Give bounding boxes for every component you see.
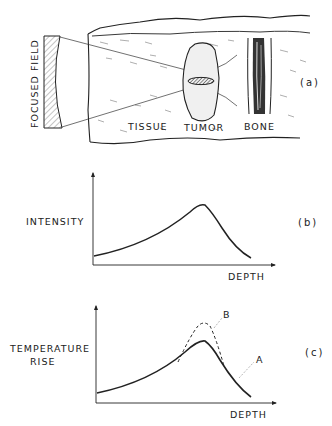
curve-a-label: A <box>256 354 264 365</box>
panel-b: INTENSITY DEPTH (b) <box>26 173 318 282</box>
y-axis-label-line1: TEMPERATURE <box>9 343 90 354</box>
curve-b-label: B <box>223 309 231 320</box>
tumor-label: TUMOR <box>183 122 224 133</box>
tumor <box>183 43 219 121</box>
panel-c-label: (c) <box>305 347 324 358</box>
y-axis-label-line2: RISE <box>30 356 55 367</box>
panel-a: FOCUSED FIELD <box>29 15 320 143</box>
curve-a-solid <box>97 341 251 397</box>
focused-field-transducer <box>44 36 62 128</box>
x-axis-label: DEPTH <box>230 409 267 420</box>
panel-c: B A TEMPERATURE RISE DEPTH (c) <box>9 306 324 420</box>
curve-b-leader <box>214 318 222 328</box>
focal-zone <box>188 77 214 84</box>
tissue-label: TISSUE <box>127 121 168 132</box>
bone <box>248 38 272 114</box>
panel-a-label: (a) <box>300 77 320 88</box>
curve-b-dashed <box>178 323 224 366</box>
curve-a-leader <box>239 362 254 378</box>
panel-b-label: (b) <box>298 217 318 228</box>
bone-label: BONE <box>244 121 275 132</box>
figure-canvas: FOCUSED FIELD <box>0 0 332 426</box>
y-axis-label: INTENSITY <box>26 216 84 227</box>
intensity-curve <box>94 205 251 258</box>
x-axis-label: DEPTH <box>228 271 265 282</box>
focused-field-label: FOCUSED FIELD <box>29 39 40 128</box>
